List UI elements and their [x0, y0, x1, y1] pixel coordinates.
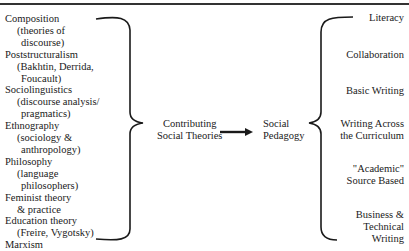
pedagogy-literacy-label: Literacy	[369, 12, 404, 24]
pedagogy-collaboration: Collaboration	[346, 49, 404, 61]
source-label-line2: Social Theories	[157, 130, 222, 142]
pedagogy-business-line1: Business &	[356, 209, 404, 221]
pedagogy-basic-writing-label: Basic Writing	[346, 85, 404, 97]
pedagogy-collaboration-label: Collaboration	[346, 49, 404, 61]
pedagogy-business-line3: Writing	[356, 233, 404, 245]
left-brace-icon	[96, 18, 143, 240]
target-label-line2: Pedagogy	[263, 130, 304, 142]
arrow-head-icon	[245, 128, 253, 136]
pedagogy-wac: Writing Across the Curriculum	[340, 118, 404, 142]
pedagogy-academic-source: "Academic" Source Based	[347, 163, 404, 187]
pedagogy-academic-line1: "Academic"	[347, 163, 404, 175]
target-node: Social Pedagogy	[263, 118, 304, 142]
source-node: Contributing Social Theories	[157, 118, 222, 142]
source-label-line1: Contributing	[157, 118, 222, 130]
pedagogy-literacy: Literacy	[369, 12, 404, 24]
pedagogy-wac-line2: the Curriculum	[340, 130, 404, 142]
target-label-line1: Social	[263, 118, 304, 130]
pedagogy-basic-writing: Basic Writing	[346, 85, 404, 97]
pedagogy-business-technical: Business & Technical Writing	[356, 209, 404, 245]
pedagogy-academic-line2: Source Based	[347, 175, 404, 187]
pedagogy-business-line2: Technical	[356, 221, 404, 233]
pedagogy-wac-line1: Writing Across	[340, 118, 404, 130]
